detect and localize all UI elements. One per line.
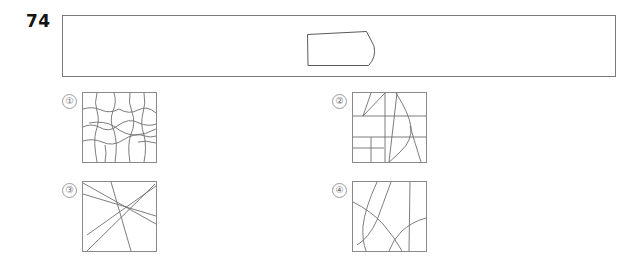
worksheet-page: 74 ①: [0, 0, 632, 268]
prompt-shape-trapezoid-icon: [63, 16, 617, 78]
option-2-pattern-bands-icon: [353, 93, 426, 162]
option-1-label: ①: [62, 94, 77, 109]
option-1-tile[interactable]: [82, 92, 157, 163]
option-4-label: ④: [332, 183, 347, 198]
question-number: 74: [26, 13, 51, 30]
option-3-label: ③: [62, 183, 77, 198]
option-4-pattern-arcs-icon: [353, 182, 426, 251]
option-4-tile[interactable]: [352, 181, 427, 252]
option-3-pattern-crossing-lines-icon: [83, 182, 156, 251]
prompt-banner: [62, 15, 616, 77]
option-2-label: ②: [332, 94, 347, 109]
option-3-tile[interactable]: [82, 181, 157, 252]
option-2-tile[interactable]: [352, 92, 427, 163]
option-1-pattern-wavy-grid-icon: [83, 93, 156, 162]
